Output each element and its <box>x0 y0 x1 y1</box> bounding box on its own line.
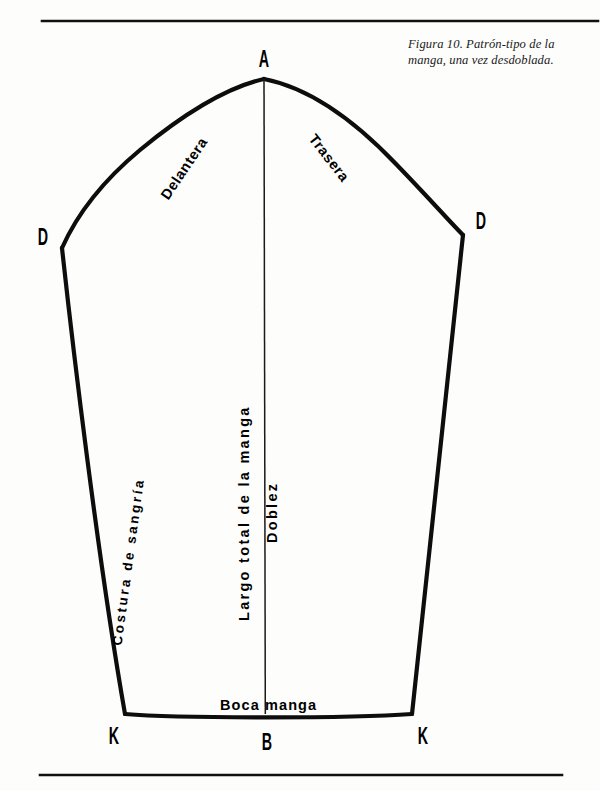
point-label-k-right: K <box>414 725 433 748</box>
point-label-k-left: K <box>105 725 124 748</box>
sleeve-pattern-drawing <box>0 0 600 791</box>
point-label-a: A <box>255 48 274 71</box>
figure-caption: Figura 10. Patrón-tipo de la manga, una … <box>408 36 590 68</box>
sleeve-cap-back-curve <box>264 79 463 235</box>
label-largo-total-de-la-manga: Largo total de la manga <box>236 405 252 621</box>
right-underarm-seam <box>412 235 463 714</box>
figure-page: Figura 10. Patrón-tipo de la manga, una … <box>0 0 600 791</box>
centre-fold-line <box>264 79 265 714</box>
sleeve-cap-front-curve <box>62 79 264 248</box>
point-label-d-left: D <box>34 226 53 249</box>
point-label-d-right: D <box>472 210 491 233</box>
point-label-b: B <box>258 731 277 754</box>
hem-line <box>125 714 412 717</box>
label-doblez: Doblez <box>264 482 280 543</box>
label-boca-manga: Boca manga <box>220 697 317 713</box>
